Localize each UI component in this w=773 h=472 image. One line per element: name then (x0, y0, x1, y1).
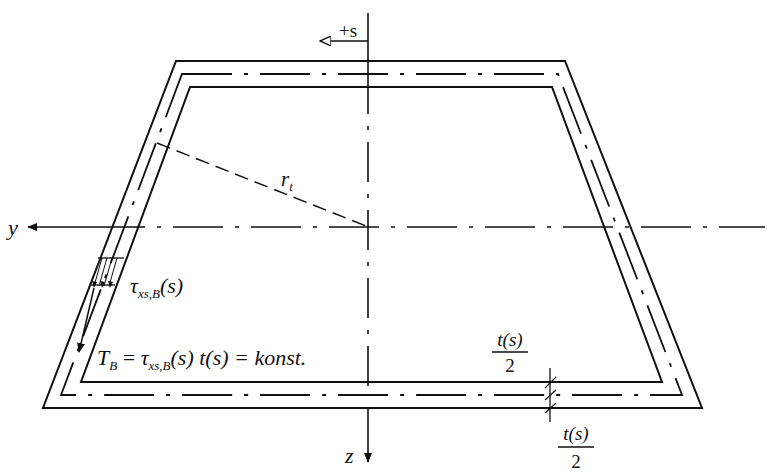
svg-text:t(s): t(s) (497, 329, 522, 351)
s-label: +s (339, 20, 357, 41)
half-thickness-label-bottom: t(s) 2 (558, 423, 594, 472)
svg-text:2: 2 (571, 451, 581, 472)
inner-wall-contour (81, 87, 662, 382)
half-thickness-label-top: t(s) 2 (492, 329, 528, 376)
bredt-formula: TB = τxs,B(s) t(s) = konst. (97, 345, 306, 373)
radius-line (157, 143, 366, 226)
radius-label: rt (281, 167, 293, 194)
cross-section-diagram: y z +s rt τxs,B(s) TB = τxs,B(s) t(s) = … (0, 0, 773, 472)
thickness-dimension (545, 368, 556, 422)
shear-stress-label: τxs,B(s) (130, 273, 183, 301)
svg-text:2: 2 (505, 355, 515, 376)
y-axis-label: y (6, 215, 18, 240)
z-axis-label: z (344, 443, 354, 468)
shear-flow-arrow (79, 288, 94, 352)
svg-text:t(s): t(s) (563, 423, 588, 445)
